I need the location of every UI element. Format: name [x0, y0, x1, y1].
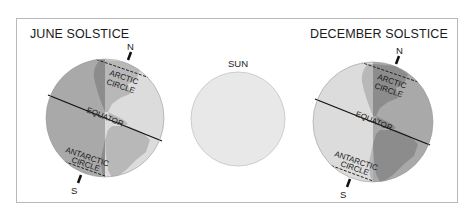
north-pole-axis [128, 52, 131, 60]
solstice-diagram: N S ARCTIC CIRCLE EQUATOR ANTARCTIC CIRC… [0, 0, 465, 212]
north-label: N [127, 41, 134, 52]
south-label: S [71, 185, 77, 196]
june-globe: N S ARCTIC CIRCLE EQUATOR ANTARCTIC CIRC… [40, 41, 175, 196]
north-pole-axis [396, 56, 399, 64]
sun-disc [191, 72, 285, 166]
sun-label: SUN [228, 58, 248, 69]
north-label: N [396, 45, 403, 56]
sun: SUN [191, 58, 285, 166]
south-label: S [340, 189, 346, 200]
south-pole-axis [78, 175, 81, 183]
december-globe: N S ARCTIC CIRCLE EQUATOR ANTARCTIC CIRC… [305, 45, 443, 200]
south-pole-axis [347, 179, 350, 187]
